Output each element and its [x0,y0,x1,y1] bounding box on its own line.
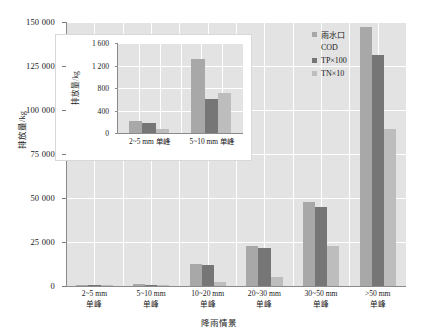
inset-y-tick-mark [115,88,118,89]
x-category-type: 单峰 [66,300,123,311]
legend-swatch-icon [312,71,317,76]
inset-bar [218,93,231,134]
inset-y-axis-ticks: 04008001 2001 600 [56,43,115,133]
x-axis-line [66,286,406,287]
bar [303,202,315,286]
legend-swatch-icon [312,32,317,37]
legend-item-cod-line2: COD [312,41,392,54]
bar [202,265,214,286]
inset-plot-area [118,43,243,133]
y-tick-mark [62,110,66,111]
bar [271,277,283,286]
inset-y-tick-label: 800 [98,84,115,93]
inset-y-tick-mark [115,43,118,44]
y-tick-mark [62,286,66,287]
bar [327,246,339,286]
x-category-type: 单峰 [236,300,293,311]
legend-item-rainwater-cod: 雨水口 [312,28,392,41]
y-tick-label: 25 000 [30,237,62,247]
x-category-label: 20~30 mm单峰 [236,289,293,319]
x-category-label: 5~10 mm单峰 [123,289,180,319]
bar [315,207,327,286]
y-tick-mark [62,198,66,199]
x-category-range: 30~50 mm [293,289,350,300]
legend-item-tn: TN×10 [312,67,392,80]
x-category-label: 30~50 mm单峰 [293,289,350,319]
y-tick-mark [62,66,66,67]
inset-bar-group [181,43,244,133]
bar [190,264,202,286]
legend-label: 雨水口 [321,29,345,40]
x-category-range: 2~5 mm [66,289,123,300]
x-axis-categories: 2~5 mm单峰5~10 mm单峰10~20 mm单峰20~30 mm单峰30~… [66,289,406,319]
bar [246,246,258,286]
legend-swatch-icon [312,58,317,63]
x-category-label: 10~20 mm单峰 [179,289,236,319]
inset-y-tick-mark [115,133,118,134]
x-category-range: 10~20 mm [179,289,236,300]
x-category-label: 2~5 mm单峰 [66,289,123,319]
inset-x-category-label: 2~5 mm 单峰 [118,135,181,146]
legend-label: TP×100 [321,56,347,65]
y-tick-label: 150 000 [26,17,62,27]
inset-y-tick-mark [115,66,118,67]
inset-bar [205,99,218,133]
inset-x-axis-categories: 2~5 mm 单峰5~10 mm 单峰 [118,135,243,146]
inset-chart: 排放量/kg 04008001 2001 600 2~5 mm 单峰5~10 m… [55,34,252,161]
legend-item-tp: TP×100 [312,54,392,67]
inset-bar-group [118,43,181,133]
x-category-type: 单峰 [123,300,180,311]
chart-figure: 排放量/kg 025 00050 00075 000100 000125 000… [0,0,438,335]
inset-bar [142,123,155,133]
x-category-type: 单峰 [349,300,406,311]
inset-y-tick-label: 1 600 [92,39,115,48]
inset-y-tick-mark [115,111,118,112]
inset-x-axis-line [117,133,243,134]
x-category-range: 5~10 mm [123,289,180,300]
x-category-label: >50 mm单峰 [349,289,406,319]
inset-y-tick-label: 400 [98,106,115,115]
y-axis-ticks: 025 00050 00075 000100 000125 000150 000 [0,22,62,286]
y-tick-label: 0 [51,281,62,291]
legend-label: TN×10 [321,69,344,78]
x-category-type: 单峰 [179,300,236,311]
legend-label-secondary: COD [321,43,338,52]
y-tick-mark [62,154,66,155]
y-tick-mark [62,22,66,23]
x-category-type: 单峰 [293,300,350,311]
y-tick-mark [62,242,66,243]
inset-y-tick-label: 1 200 [92,61,115,70]
x-axis-title: 降雨情景 [0,316,438,328]
inset-bar [129,121,142,133]
x-category-range: >50 mm [349,289,406,300]
y-tick-label: 50 000 [30,193,62,203]
bar [384,129,396,286]
bar [258,248,270,286]
inset-x-category-label: 5~10 mm 单峰 [181,135,244,146]
legend: 雨水口 COD TP×100 TN×10 [312,28,392,80]
inset-bar [191,59,204,133]
bar [372,55,384,286]
x-category-range: 20~30 mm [236,289,293,300]
inset-y-tick-label: 0 [105,129,115,138]
